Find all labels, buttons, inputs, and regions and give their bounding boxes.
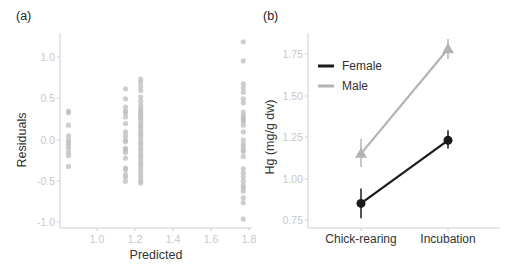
- b-x-ticks: Chick-rearing Incubation: [325, 228, 475, 246]
- a-xtick-label: 1.8: [242, 233, 257, 245]
- panel-a-label: (a): [16, 9, 31, 23]
- residual-point: [241, 129, 246, 134]
- residual-point: [241, 217, 246, 222]
- b-y-axis-title: Hg (mg/g dw): [263, 99, 277, 174]
- residual-point: [241, 123, 246, 128]
- residual-point: [123, 179, 128, 184]
- residual-point: [66, 110, 71, 115]
- legend-male-label: Male: [342, 79, 368, 93]
- figure: (a) 1.0 0.5 0.0 -0.5 -1.0 1.0 1.2 1.4 1.…: [0, 0, 518, 268]
- residual-point: [123, 86, 128, 91]
- residual-point: [123, 156, 128, 161]
- a-x-axis-title: Predicted: [130, 248, 183, 262]
- residual-point: [138, 88, 143, 93]
- b-ytick-label: 0.75: [283, 214, 304, 226]
- a-ytick-label: -0.5: [37, 175, 55, 187]
- residual-point: [123, 114, 128, 119]
- residual-point: [123, 96, 128, 101]
- a-ytick-label: 0.0: [40, 134, 55, 146]
- b-ytick-label: 1.00: [283, 173, 304, 185]
- residual-point: [123, 150, 128, 155]
- a-xtick-label: 1.4: [166, 233, 181, 245]
- b-ytick-label: 1.75: [283, 48, 304, 60]
- legend-female-label: Female: [342, 59, 382, 73]
- b-y-ticks: 1.75 1.50 1.25 1.00 0.75: [283, 48, 308, 226]
- residual-point: [123, 139, 128, 144]
- a-y-axis-title: Residuals: [15, 113, 29, 168]
- residual-point: [66, 123, 71, 128]
- a-ytick-label: -1.0: [37, 216, 55, 228]
- a-ytick-label: 1.0: [40, 51, 55, 63]
- a-xtick-label: 1.0: [90, 233, 105, 245]
- triangle-marker-icon: [442, 43, 454, 53]
- residual-point: [241, 195, 246, 200]
- series-line: [361, 140, 448, 203]
- residual-point: [138, 180, 143, 185]
- residual-point: [241, 149, 246, 154]
- residual-point: [66, 164, 71, 169]
- circle-marker-icon: [357, 199, 366, 208]
- series-female: [357, 130, 453, 218]
- a-ytick-label: 0.5: [40, 92, 55, 104]
- residual-point: [241, 200, 246, 205]
- category-label-incubation: Incubation: [420, 232, 475, 246]
- panel-b: (b) 1.75 1.50 1.25 1.00 0.75 Chick-reari…: [263, 9, 500, 246]
- panel-a: (a) 1.0 0.5 0.0 -0.5 -1.0 1.0 1.2 1.4 1.…: [15, 9, 256, 262]
- b-ytick-label: 1.25: [283, 131, 304, 143]
- residual-point: [241, 154, 246, 159]
- a-y-ticks: 1.0 0.5 0.0 -0.5 -1.0: [37, 51, 60, 228]
- residual-point: [123, 167, 128, 172]
- residual-point: [241, 58, 246, 63]
- panel-b-label: (b): [263, 9, 278, 23]
- legend: Female Male: [318, 59, 382, 93]
- b-ytick-label: 1.50: [283, 90, 304, 102]
- residual-point: [123, 121, 128, 126]
- circle-marker-icon: [444, 136, 453, 145]
- residual-point: [241, 100, 246, 105]
- residual-point: [241, 39, 246, 44]
- residual-points: [66, 39, 246, 222]
- residual-point: [66, 153, 71, 158]
- a-x-ticks: 1.0 1.2 1.4 1.6 1.8: [90, 228, 257, 245]
- a-xtick-label: 1.2: [128, 233, 143, 245]
- residual-point: [241, 90, 246, 95]
- a-xtick-label: 1.6: [204, 233, 219, 245]
- residual-point: [241, 189, 246, 194]
- category-label-chick-rearing: Chick-rearing: [325, 232, 396, 246]
